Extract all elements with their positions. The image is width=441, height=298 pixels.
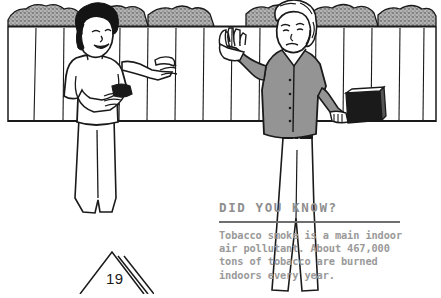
page-number-value: 19 xyxy=(106,270,124,287)
did-you-know-fact-box: DID YOU KNOW? Tobacco smoke is a main in… xyxy=(219,200,419,282)
fact-box-divider xyxy=(219,221,400,223)
page-number-marker: 19 xyxy=(78,246,154,294)
fact-box-body: Tobacco smoke is a main indoor air pollu… xyxy=(219,229,409,282)
fact-box-title: DID YOU KNOW? xyxy=(219,200,419,215)
